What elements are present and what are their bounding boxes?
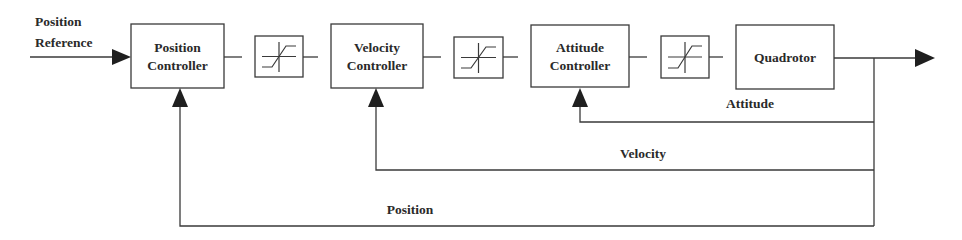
attitude-feedback-label: Attitude	[726, 96, 774, 111]
attitude-controller-line1: Attitude	[556, 40, 604, 55]
velocity-controller-line1: Velocity	[354, 40, 400, 55]
attitude-controller-line2: Controller	[550, 58, 611, 73]
attitude-feedback-arrowhead	[572, 88, 588, 107]
input-label-line2: Reference	[35, 35, 92, 50]
quadrotor-block: Quadrotor	[736, 25, 834, 89]
velocity-feedback-arrowhead	[368, 88, 384, 107]
input-label-line1: Position	[35, 14, 82, 29]
position-controller-line2: Controller	[147, 58, 208, 73]
control-diagram: Position Reference Position Controller V…	[0, 0, 962, 240]
saturation-block-2	[454, 37, 503, 78]
attitude-controller-block: Attitude Controller	[531, 25, 629, 87]
saturation-block-3	[661, 36, 709, 78]
saturation-block-1	[255, 36, 303, 77]
quadrotor-label: Quadrotor	[754, 50, 816, 65]
position-feedback-arrowhead	[172, 88, 188, 107]
velocity-controller-block: Velocity Controller	[331, 24, 423, 88]
input-arrowhead	[112, 49, 131, 65]
velocity-feedback-path: Velocity	[368, 88, 874, 170]
output-arrowhead	[915, 49, 935, 67]
velocity-feedback-label: Velocity	[620, 146, 666, 161]
attitude-feedback-path: Attitude	[572, 88, 874, 122]
position-feedback-label: Position	[387, 202, 434, 217]
velocity-controller-line2: Controller	[347, 58, 408, 73]
position-controller-block: Position Controller	[131, 24, 224, 88]
position-controller-line1: Position	[154, 40, 201, 55]
